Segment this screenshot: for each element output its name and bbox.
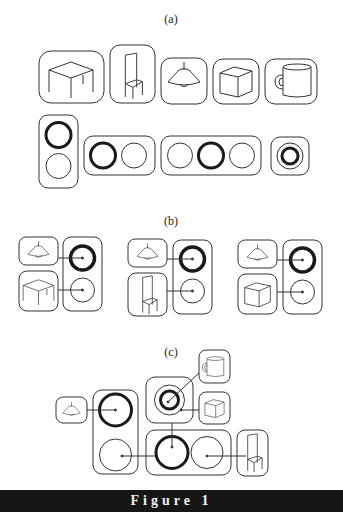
node-dot [171, 446, 173, 448]
inner-bold-circle [282, 148, 298, 164]
node-dot [180, 409, 182, 411]
lamp-box [56, 397, 87, 423]
thin-circle [191, 437, 223, 469]
circle-group-box [63, 237, 102, 311]
panel-a-objects [39, 45, 317, 104]
figure-caption-bar: Figure 1 [0, 490, 343, 512]
lamp-box [238, 240, 277, 268]
cube-box [238, 274, 277, 314]
thin-circle [230, 143, 255, 168]
circle-group-box [283, 240, 322, 314]
cube-box [199, 392, 230, 424]
node-dot [121, 455, 123, 457]
lamp-icon [63, 402, 81, 415]
table-icon [23, 280, 54, 305]
panel-c-diagram [56, 350, 268, 476]
node-dot [115, 409, 117, 411]
node-dot [302, 291, 304, 293]
node-dot [192, 290, 194, 292]
cube-icon [220, 67, 252, 97]
thin-circle [122, 143, 147, 168]
figure-diagram [0, 0, 343, 512]
mug-icon [275, 64, 311, 97]
node-dot [206, 455, 208, 457]
chair-box [237, 430, 268, 476]
connector-line [167, 259, 192, 291]
lamp-icon [247, 244, 268, 260]
bold-circle [46, 123, 71, 148]
mug-icon [202, 357, 224, 377]
node-dot [82, 289, 84, 291]
node-dot [82, 257, 84, 259]
lamp-box [19, 237, 58, 265]
thin-circle [168, 143, 193, 168]
cube-icon [245, 283, 271, 307]
bold-circle [199, 143, 224, 168]
panel-b-group-3 [238, 240, 322, 314]
vertical-group-box [39, 115, 78, 188]
horizontal-group-box [84, 136, 155, 175]
lamp-icon [137, 243, 158, 259]
chair-icon [143, 276, 157, 314]
table-icon [49, 62, 93, 98]
panel-b-group-1 [19, 237, 102, 311]
lamp-icon [168, 62, 200, 87]
thin-circle [100, 439, 132, 471]
chair-icon [125, 53, 142, 99]
mug-box [199, 350, 230, 383]
panel-b-group-2 [128, 239, 212, 316]
node-dot [302, 259, 304, 261]
figure-caption: Figure 1 [131, 493, 213, 508]
connector-line [277, 260, 302, 292]
bold-circle [91, 143, 116, 168]
panel-a-circle-groups [39, 115, 309, 188]
chair-box [128, 273, 167, 316]
cube-icon [205, 400, 224, 418]
thin-circle [46, 154, 71, 179]
lamp-icon [28, 241, 49, 257]
node-dot [192, 258, 194, 260]
chair-icon [248, 434, 262, 472]
lamp-box [128, 239, 167, 267]
